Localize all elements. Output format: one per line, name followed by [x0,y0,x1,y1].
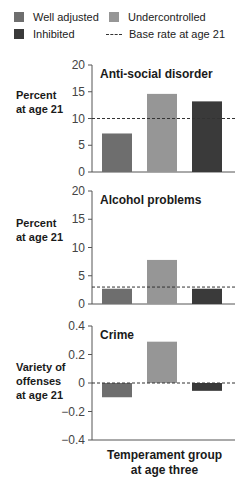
xlabel-line: at age three [92,463,237,478]
bar-inhibited [192,289,222,304]
panel-2: 05101520Alcohol problems [72,184,235,311]
panel-title: Anti-social disorder [100,67,213,81]
y-tick-label: 0.4 [68,319,85,333]
panel-title: Crime [100,328,134,342]
x-axis-label: Temperament group at age three [92,448,237,478]
y-tick-label: 15 [72,85,86,99]
y-tick-label: 0 [78,376,85,390]
y-tick-label: 0 [78,297,85,311]
y-tick-label: 5 [78,269,85,283]
bar-inhibited [192,101,222,172]
bar-well-adjusted [102,289,132,304]
y-tick-label: 20 [72,184,86,198]
bar-undercontrolled [147,94,177,172]
bar-well-adjusted [102,133,132,172]
xlabel-line: Temperament group [92,448,237,463]
bar-inhibited [192,383,222,391]
bar-undercontrolled [147,342,177,383]
y-tick-label: 5 [78,138,85,152]
y-tick-label: 0 [78,165,85,179]
panel-3: −0.4−0.200.20.4Crime [61,319,235,447]
panel-1: 05101520Anti-social disorder [72,58,235,179]
y-tick-label: 0.2 [68,348,85,362]
bar-undercontrolled [147,260,177,304]
y-tick-label: −0.4 [61,433,85,447]
y-tick-label: 10 [72,112,86,126]
y-tick-label: 15 [72,212,86,226]
panel-title: Alcohol problems [100,193,202,207]
bar-well-adjusted [102,383,132,397]
y-tick-label: −0.2 [61,405,85,419]
y-tick-label: 20 [72,58,86,72]
y-tick-label: 10 [72,241,86,255]
chart-panels: 05101520Anti-social disorder05101520Alco… [0,0,237,483]
